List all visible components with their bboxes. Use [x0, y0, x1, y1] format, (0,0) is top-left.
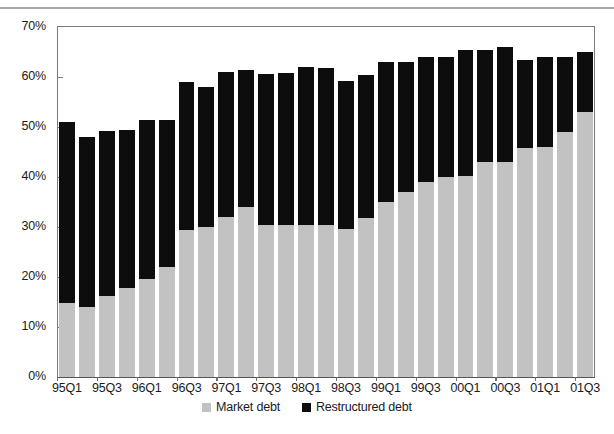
bar-segment-restructured-debt: [497, 47, 513, 162]
bar-segment-market-debt: [99, 296, 115, 378]
bar-segment-restructured-debt: [477, 50, 493, 163]
y-axis-tick-label: 0%: [0, 369, 46, 383]
bar-segment-restructured-debt: [258, 74, 274, 225]
bar-segment-market-debt: [179, 230, 195, 378]
bar-segment-restructured-debt: [318, 68, 334, 225]
bar-segment-market-debt: [258, 225, 274, 378]
bar-segment-market-debt: [418, 182, 434, 377]
bar-segment-market-debt: [557, 132, 573, 377]
bar-segment-restructured-debt: [458, 50, 474, 176]
bar-segment-market-debt: [517, 148, 533, 377]
bar-segment-restructured-debt: [537, 57, 553, 147]
bar-segment-market-debt: [497, 162, 513, 377]
y-axis-tick-label: 70%: [0, 19, 46, 33]
bar-01Q2: [557, 57, 573, 377]
legend-item-restructured-debt: Restructured debt: [302, 400, 412, 414]
bar-segment-restructured-debt: [278, 73, 294, 225]
bar-99Q4: [438, 57, 454, 377]
chart-container: 0%10%20%30%40%50%60%70% 95Q195Q396Q196Q3…: [0, 0, 614, 434]
bar-97Q2: [238, 70, 254, 378]
bar-segment-market-debt: [338, 229, 354, 378]
bar-segment-restructured-debt: [338, 81, 354, 229]
legend-label: Restructured debt: [316, 400, 412, 414]
y-axis-tick-label: 30%: [0, 219, 46, 233]
bar-95Q1: [59, 122, 75, 377]
bar-segment-market-debt: [577, 112, 593, 377]
bar-segment-restructured-debt: [218, 72, 234, 217]
legend-item-market-debt: Market debt: [202, 400, 280, 414]
bar-00Q1: [458, 50, 474, 378]
bar-98Q4: [358, 75, 374, 378]
legend-label: Market debt: [216, 400, 280, 414]
bar-segment-market-debt: [458, 176, 474, 378]
bar-segment-restructured-debt: [438, 57, 454, 177]
bar-98Q2: [318, 68, 334, 377]
x-axis-tick-label: 01Q3: [561, 381, 609, 395]
bar-segment-market-debt: [139, 279, 155, 378]
bar-segment-restructured-debt: [159, 120, 175, 268]
legend-swatch-icon: [302, 403, 311, 412]
bar-00Q3: [497, 47, 513, 377]
bar-segment-restructured-debt: [577, 52, 593, 112]
bar-95Q2: [79, 137, 95, 377]
bar-segment-restructured-debt: [398, 62, 414, 192]
bar-segment-restructured-debt: [198, 87, 214, 227]
y-axis-tick-label: 40%: [0, 169, 46, 183]
bar-segment-market-debt: [537, 147, 553, 377]
bar-segment-restructured-debt: [99, 131, 115, 296]
bar-99Q1: [378, 62, 394, 377]
bar-segment-market-debt: [218, 217, 234, 377]
y-axis-tick-label: 60%: [0, 69, 46, 83]
legend-swatch-icon: [202, 403, 211, 412]
bar-segment-market-debt: [477, 162, 493, 377]
bar-segment-restructured-debt: [517, 60, 533, 149]
y-axis-tick-label: 20%: [0, 269, 46, 283]
bar-97Q3: [258, 74, 274, 378]
bar-segment-market-debt: [378, 202, 394, 377]
bar-99Q3: [418, 57, 434, 377]
bar-segment-market-debt: [298, 225, 314, 378]
bar-01Q3: [577, 52, 593, 377]
bar-segment-restructured-debt: [358, 75, 374, 219]
bar-00Q2: [477, 50, 493, 378]
bar-96Q2: [159, 120, 175, 378]
bar-segment-restructured-debt: [378, 62, 394, 202]
bar-segment-market-debt: [119, 288, 135, 377]
bar-segment-market-debt: [238, 207, 254, 377]
bar-segment-restructured-debt: [59, 122, 75, 303]
bar-segment-restructured-debt: [298, 67, 314, 225]
chart-legend: Market debtRestructured debt: [0, 400, 614, 414]
bar-99Q2: [398, 62, 414, 377]
bar-segment-restructured-debt: [238, 70, 254, 208]
bar-series-layer: [57, 0, 595, 434]
bar-segment-market-debt: [358, 218, 374, 377]
bar-segment-restructured-debt: [119, 130, 135, 288]
bar-98Q1: [298, 67, 314, 377]
bar-96Q4: [198, 87, 214, 377]
bar-segment-restructured-debt: [557, 57, 573, 132]
y-axis-tick-label: 10%: [0, 319, 46, 333]
bar-segment-market-debt: [59, 303, 75, 377]
bar-segment-restructured-debt: [79, 137, 95, 307]
bar-segment-market-debt: [398, 192, 414, 377]
bar-segment-market-debt: [79, 307, 95, 377]
bar-segment-market-debt: [198, 227, 214, 377]
bar-95Q3: [99, 131, 115, 378]
bar-97Q4: [278, 73, 294, 377]
bar-segment-restructured-debt: [418, 57, 434, 182]
bar-95Q4: [119, 130, 135, 377]
bar-segment-restructured-debt: [139, 120, 155, 279]
bar-segment-market-debt: [318, 225, 334, 378]
bar-97Q1: [218, 72, 234, 377]
bar-98Q3: [338, 81, 354, 377]
bar-segment-market-debt: [438, 177, 454, 377]
bar-96Q3: [179, 82, 195, 377]
bar-01Q1: [537, 57, 553, 377]
bar-96Q1: [139, 120, 155, 378]
bar-segment-market-debt: [159, 267, 175, 377]
bar-segment-market-debt: [278, 225, 294, 378]
y-axis-tick-label: 50%: [0, 119, 46, 133]
bar-segment-restructured-debt: [179, 82, 195, 230]
bar-00Q4: [517, 60, 533, 378]
